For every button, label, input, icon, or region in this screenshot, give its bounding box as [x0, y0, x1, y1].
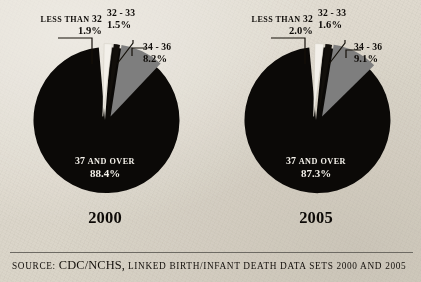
callout-32-33: 32 - 33 1.6% — [318, 8, 382, 31]
callout-category-less-than-32-num: 32 — [92, 13, 102, 24]
pie-chart-2000: LESS THAN 32 1.9% 32 - 33 1.5% 34 - 36 8… — [0, 0, 210, 240]
inner-category-37-text: AND OVER — [88, 157, 135, 166]
callout-category-less-than-32: LESS THAN 32 — [16, 14, 102, 25]
inner-category-37-and-over: 37 AND OVER — [211, 155, 421, 167]
inner-category-37-and-over: 37 AND OVER — [0, 155, 210, 167]
callout-category-less-than-32-text: LESS THAN — [41, 15, 93, 24]
callout-category-34-36: 34 - 36 — [143, 42, 207, 53]
inner-percent-37-and-over: 88.4% — [0, 167, 210, 180]
source-agency: CDC/NCHS, — [59, 258, 125, 272]
inner-category-37-num: 37 — [286, 155, 299, 166]
inner-category-37-text: AND OVER — [299, 157, 346, 166]
callout-percent-less-than-32: 2.0% — [227, 25, 313, 37]
source-prefix: SOURCE: — [12, 261, 56, 271]
inner-category-37-num: 37 — [75, 155, 88, 166]
year-label-2000: 2000 — [0, 208, 210, 228]
inner-label-37-and-over: 37 AND OVER 87.3% — [211, 155, 421, 180]
footer-divider — [10, 252, 413, 253]
callout-34-36: 34 - 36 8.2% — [143, 42, 207, 65]
callout-category-34-36: 34 - 36 — [354, 42, 418, 53]
callout-percent-34-36: 8.2% — [143, 53, 207, 65]
callout-less-than-32: LESS THAN 32 1.9% — [16, 14, 102, 37]
callout-percent-32-33: 1.5% — [107, 19, 171, 31]
callout-percent-32-33: 1.6% — [318, 19, 382, 31]
inner-percent-37-and-over: 87.3% — [211, 167, 421, 180]
callout-category-32-33: 32 - 33 — [318, 8, 382, 19]
callout-32-33: 32 - 33 1.5% — [107, 8, 171, 31]
inner-label-37-and-over: 37 AND OVER 88.4% — [0, 155, 210, 180]
callout-percent-less-than-32: 1.9% — [16, 25, 102, 37]
callout-less-than-32: LESS THAN 32 2.0% — [227, 14, 313, 37]
source-rest: LINKED BIRTH/INFANT DEATH DATA SETS 2000… — [128, 261, 406, 271]
callout-category-less-than-32-num: 32 — [303, 13, 313, 24]
figure-page: LESS THAN 32 1.9% 32 - 33 1.5% 34 - 36 8… — [0, 0, 421, 282]
callout-34-36: 34 - 36 9.1% — [354, 42, 418, 65]
callout-category-32-33: 32 - 33 — [107, 8, 171, 19]
source-note: SOURCE: CDC/NCHS, LINKED BIRTH/INFANT DE… — [12, 258, 406, 273]
pie-chart-2005: LESS THAN 32 2.0% 32 - 33 1.6% 34 - 36 9… — [211, 0, 421, 240]
callout-category-less-than-32-text: LESS THAN — [252, 15, 304, 24]
year-label-2005: 2005 — [211, 208, 421, 228]
callout-category-less-than-32: LESS THAN 32 — [227, 14, 313, 25]
callout-percent-34-36: 9.1% — [354, 53, 418, 65]
